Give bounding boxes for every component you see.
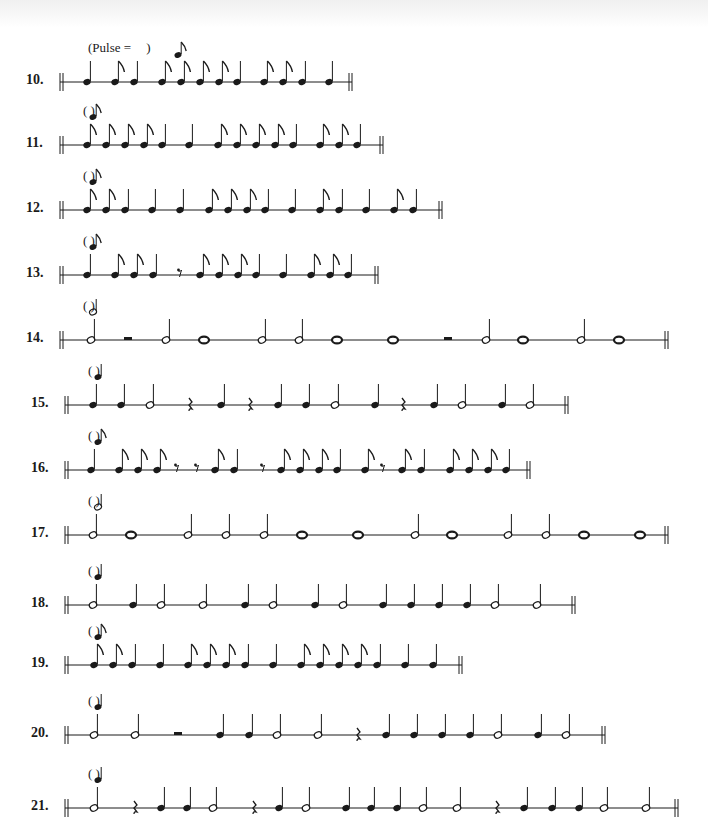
pulse-marker: ( ) [88,428,128,448]
whole-note-icon [332,337,342,344]
exercise-number: 18. [31,595,49,611]
flag-icon [122,449,128,460]
flag-icon [472,449,478,460]
exercise-20 [65,694,605,744]
flag-icon [491,449,497,460]
flag-icon [184,61,190,72]
whole-note-icon [635,532,645,539]
flag-icon [203,254,209,265]
flag-icon [314,254,320,265]
exercise-15 [65,364,568,414]
exercise-number: 10. [26,72,44,88]
flag-icon [90,124,96,135]
flag-icon [250,189,256,200]
pulse-marker: ( ) [88,493,128,513]
flag-icon [222,254,228,265]
exercise-number: 21. [31,798,49,814]
flag-icon [284,449,290,460]
whole-note-icon [297,532,307,539]
flag-icon [109,124,115,135]
flag-icon [241,254,247,265]
half-rest-icon [174,732,182,735]
flag-icon [323,644,329,655]
flag-icon [141,449,147,460]
flag-icon [323,124,329,135]
flag-icon [118,254,124,265]
exercise-17 [65,494,668,544]
flag-icon [342,124,348,135]
pulse-marker: ( ) [88,623,128,643]
flag-icon [165,61,171,72]
pulse-marker: ( ) [83,233,123,253]
exercise-number: 20. [31,725,49,741]
half-rest-icon [124,337,132,340]
flag-icon [304,644,310,655]
exercise-16 [65,429,530,479]
pulse-marker: ( ) [83,103,123,123]
exercise-number: 19. [31,655,49,671]
flag-icon [278,124,284,135]
flag-icon [203,61,209,72]
flag-icon [90,189,96,200]
exercise-number: 14. [26,330,44,346]
flag-icon [342,644,348,655]
exercise-number: 17. [31,525,49,541]
exercise-number: 13. [26,265,44,281]
whole-note-icon [353,532,363,539]
flag-icon [323,189,329,200]
flag-icon [240,124,246,135]
flag-icon [361,644,367,655]
pulse-marker: (Pulse = ) [88,40,178,60]
flag-icon [397,189,403,200]
flag-icon [229,644,235,655]
flag-icon [286,61,292,72]
flag-icon [116,644,122,655]
pulse-marker: ( ) [83,298,123,318]
exercise-18 [65,564,575,614]
whole-note-icon [614,337,624,344]
flag-icon [405,449,411,460]
whole-note-icon [518,337,528,344]
flag-icon [160,449,166,460]
exercise-14 [60,299,668,349]
flag-icon [147,124,153,135]
flag-icon [191,644,197,655]
flag-icon [137,254,143,265]
flag-icon [97,644,103,655]
whole-note-icon [388,337,398,344]
pulse-text-close: ) [146,40,150,55]
exercise-number: 12. [26,200,44,216]
exercise-21 [65,767,678,817]
flag-icon [259,124,265,135]
flag-icon [368,449,374,460]
pulse-marker: ( ) [88,766,128,786]
pulse-text: (Pulse = [88,40,134,55]
exercise-number: 15. [31,395,49,411]
exercise-number: 11. [26,135,43,151]
pulse-marker: ( ) [83,168,123,188]
flag-icon [221,124,227,135]
pulse-marker: ( ) [88,363,128,383]
flag-icon [333,254,339,265]
flag-icon [453,449,459,460]
whole-note-icon [447,532,457,539]
flag-icon [128,124,134,135]
flag-icon [212,189,218,200]
rhythm-exercise-sheet: 10.(Pulse = )11.( )12.( )13.( )14.( )15.… [0,0,708,830]
flag-icon [267,61,273,72]
whole-note-icon [126,532,136,539]
flag-icon [218,449,224,460]
flag-icon [322,449,328,460]
pulse-marker: ( ) [88,693,128,713]
whole-note-icon [579,532,589,539]
flag-icon [118,61,124,72]
flag-icon [109,189,115,200]
flag-icon [210,644,216,655]
pulse-marker: ( ) [88,563,128,583]
flag-icon [231,189,237,200]
whole-note-icon [199,337,209,344]
flag-icon [303,449,309,460]
exercise-number: 16. [31,460,49,476]
flag-icon [222,61,228,72]
half-rest-icon [444,337,452,340]
